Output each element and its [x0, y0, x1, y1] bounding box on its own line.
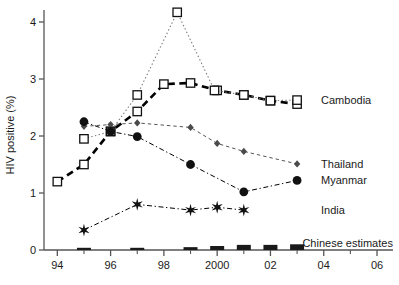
series-cambodia — [53, 79, 301, 186]
label-myanmar: Myanmar — [321, 174, 367, 186]
marker-open-square — [210, 86, 218, 94]
marker-open-square — [133, 107, 141, 115]
y-tick-label: 4 — [30, 16, 36, 28]
marker-filled-circle — [106, 127, 115, 136]
bar-chinese-estimate — [130, 248, 144, 250]
marker-filled-circle — [133, 132, 142, 141]
marker-star — [78, 224, 89, 237]
marker-open-square — [53, 177, 61, 185]
x-tick-label: 02 — [264, 259, 276, 271]
marker-open-square — [293, 96, 301, 104]
bar-chinese-estimate — [210, 246, 224, 250]
series-labels-group: CambodiaThailandMyanmarIndiaChinese esti… — [302, 94, 393, 249]
marker-diamond — [241, 148, 247, 155]
series-group — [53, 8, 304, 250]
marker-open-square — [80, 135, 88, 143]
marker-diamond — [134, 119, 140, 126]
series-india — [78, 198, 249, 236]
series-chinese-estimates — [77, 244, 304, 250]
bar-chinese-estimate — [77, 248, 91, 250]
x-tick-label: 98 — [158, 259, 170, 271]
marker-open-square — [186, 79, 194, 87]
y-axis-title: HIV positive (%) — [4, 96, 16, 175]
marker-filled-circle — [80, 117, 89, 126]
x-tick-labels-group: 9496982000020406 — [51, 259, 383, 271]
marker-open-square — [173, 8, 181, 16]
marker-open-square — [266, 96, 274, 104]
y-tick-labels-group: 01234 — [30, 16, 36, 256]
x-tick-label: 96 — [104, 259, 116, 271]
series-line — [57, 83, 297, 182]
marker-open-square — [133, 91, 141, 99]
label-india: India — [321, 204, 346, 216]
label-cambodia: Cambodia — [321, 94, 372, 106]
hiv-prevalence-chart-figure: 01234 9496982000020406 CambodiaThailandM… — [0, 0, 399, 285]
x-tick-label: 04 — [318, 259, 330, 271]
y-tick-label: 3 — [30, 73, 36, 85]
x-tick-label: 2000 — [205, 259, 229, 271]
marker-open-square — [160, 80, 168, 88]
y-tick-label: 2 — [30, 130, 36, 142]
y-tick-label: 0 — [30, 244, 36, 256]
bar-chinese-estimate — [237, 245, 251, 250]
x-tick-label: 06 — [371, 259, 383, 271]
marker-filled-circle — [293, 176, 302, 185]
marker-open-square — [80, 160, 88, 168]
chart-canvas: 01234 9496982000020406 CambodiaThailandM… — [0, 0, 399, 285]
bar-chinese-estimate — [184, 247, 198, 250]
marker-star — [132, 198, 143, 211]
x-tick-label: 94 — [51, 259, 63, 271]
label-chinese: Chinese estimates — [302, 237, 393, 249]
series-line — [84, 12, 297, 139]
axes-group — [39, 10, 393, 256]
series-cambodia-upper — [80, 8, 302, 143]
marker-open-square — [240, 91, 248, 99]
marker-filled-circle — [239, 187, 248, 196]
label-thailand: Thailand — [321, 158, 363, 170]
marker-star — [212, 201, 223, 214]
bar-chinese-estimate — [263, 245, 277, 250]
marker-diamond — [294, 160, 300, 167]
y-tick-label: 1 — [30, 187, 36, 199]
marker-diamond — [187, 124, 193, 131]
marker-diamond — [214, 140, 220, 147]
marker-filled-circle — [186, 160, 195, 169]
